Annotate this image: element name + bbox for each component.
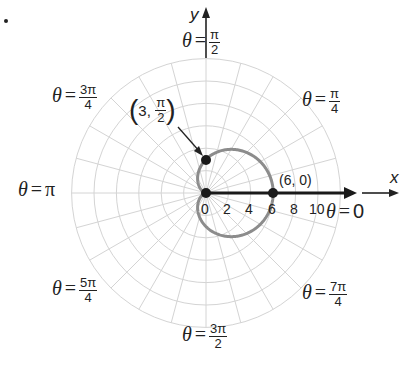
point-3-pi-over-2: [201, 155, 211, 165]
angle-label-3pi-over-2: θ=3π2: [182, 322, 227, 351]
y-axis-label: y: [190, 5, 199, 25]
point-label-6-0: (6, 0): [279, 172, 312, 188]
tick-0: 0: [201, 201, 209, 217]
angle-label-0: θ=0: [326, 200, 364, 223]
angle-label-3pi-over-4: θ=3π4: [52, 83, 97, 112]
angle-label-pi-over-4: θ=π4: [302, 87, 340, 116]
angle-label-7pi-over-4: θ=7π4: [302, 280, 347, 309]
point-label-3-pi-over-2: (3, π2): [129, 94, 176, 126]
polar-axis-arrowhead: [344, 187, 357, 199]
tick-4: 4: [245, 201, 253, 217]
y-axis-arrowhead: [202, 7, 210, 18]
angle-label-pi: θ=π: [18, 178, 55, 201]
angle-label-5pi-over-4: θ=5π4: [52, 276, 97, 305]
tick-10: 10: [309, 201, 325, 217]
polar-graph: y x θ=π2 θ=3π4 θ=π4 θ=π θ=0 θ=5π4 θ=7π4 …: [0, 0, 408, 371]
x-axis-arrowhead: [389, 189, 399, 197]
tick-8: 8: [290, 201, 298, 217]
tick-6: 6: [268, 201, 276, 217]
point-6-0: [268, 188, 278, 198]
x-axis-label: x: [390, 168, 399, 188]
pole-point: [201, 188, 211, 198]
angle-label-pi-over-2: θ=π2: [182, 28, 220, 57]
tick-2: 2: [223, 201, 231, 217]
